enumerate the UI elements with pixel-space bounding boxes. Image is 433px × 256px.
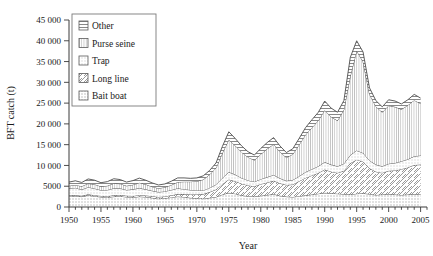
x-tick-label: 1970 xyxy=(188,215,207,225)
y-tick-label: 45 000 xyxy=(36,15,61,25)
legend-label-bait-boat: Bait boat xyxy=(92,91,127,101)
y-tick-label: 10 000 xyxy=(36,161,61,171)
y-tick-label: 25 000 xyxy=(36,98,61,108)
y-axis-label: BFT catch (t) xyxy=(5,86,17,140)
legend-swatch-purse-seine xyxy=(79,39,88,48)
y-tick-label: 5000 xyxy=(43,181,62,191)
x-axis: 1950195519601965197019751980198519901995… xyxy=(60,207,430,225)
y-tick-label: 40 000 xyxy=(36,36,61,46)
legend-label-long-line: Long line xyxy=(92,74,129,84)
x-tick-label: 1980 xyxy=(252,215,271,225)
x-tick-label: 1995 xyxy=(348,215,367,225)
x-tick-label: 1990 xyxy=(316,215,335,225)
legend-label-other: Other xyxy=(92,21,114,31)
y-tick-label: 15 000 xyxy=(36,140,61,150)
legend-label-trap: Trap xyxy=(92,56,110,66)
x-tick-label: 2000 xyxy=(380,215,399,225)
legend-swatch-long-line xyxy=(79,74,88,83)
x-tick-label: 1985 xyxy=(284,215,303,225)
y-axis: 0500010 00015 00020 00025 00030 00035 00… xyxy=(36,15,69,212)
legend-swatch-bait-boat xyxy=(79,91,88,100)
y-tick-label: 0 xyxy=(57,202,62,212)
chart-figure: 0500010 00015 00020 00025 00030 00035 00… xyxy=(0,0,433,256)
legend-label-purse-seine: Purse seine xyxy=(92,39,135,49)
bft-catch-stacked-area-chart: 0500010 00015 00020 00025 00030 00035 00… xyxy=(0,0,433,256)
x-tick-label: 1950 xyxy=(60,215,79,225)
x-tick-label: 1955 xyxy=(92,215,111,225)
x-tick-label: 1965 xyxy=(156,215,175,225)
x-tick-label: 1960 xyxy=(124,215,143,225)
y-tick-label: 20 000 xyxy=(36,119,61,129)
x-axis-label: Year xyxy=(239,240,258,251)
y-tick-label: 30 000 xyxy=(36,78,61,88)
x-tick-label: 2005 xyxy=(412,215,431,225)
legend-swatch-other xyxy=(79,21,88,30)
legend-swatch-trap xyxy=(79,56,88,65)
y-tick-label: 35 000 xyxy=(36,57,61,67)
x-tick-label: 1975 xyxy=(220,215,239,225)
legend: OtherPurse seineTrapLong lineBait boat xyxy=(72,14,156,106)
